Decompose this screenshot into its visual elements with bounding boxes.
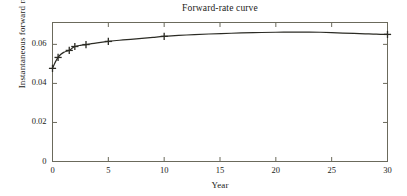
series-lines (53, 32, 388, 68)
chart-figure: Forward-rate curve Instantaneous forward… (0, 0, 407, 196)
x-tick-label: 20 (264, 165, 288, 175)
axis-frame (53, 23, 388, 162)
y-tick-label: 0.02 (17, 116, 47, 126)
x-axis-label: Year (52, 180, 388, 190)
x-tick-label: 25 (320, 165, 344, 175)
series-markers (49, 31, 391, 72)
y-axis-ticks (53, 44, 388, 161)
x-tick-label: 30 (376, 165, 400, 175)
x-tick-label: 15 (208, 165, 232, 175)
x-tick-label: 5 (96, 165, 120, 175)
y-tick-label: 0.06 (17, 38, 47, 48)
x-axis-ticks (53, 23, 388, 162)
x-tick-label: 10 (152, 165, 176, 175)
x-tick-label: 0 (41, 165, 65, 175)
y-tick-label: 0.04 (17, 77, 47, 87)
